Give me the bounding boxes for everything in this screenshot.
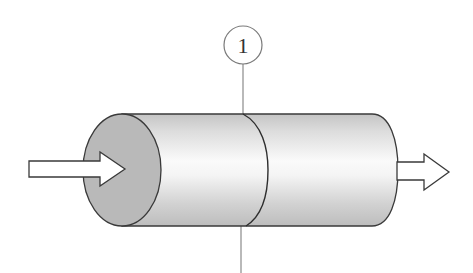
section-marker: 1 bbox=[224, 26, 262, 64]
outlet-arrow-icon bbox=[397, 154, 449, 190]
cylinder-diagram: 1 bbox=[0, 0, 473, 273]
section-marker-label: 1 bbox=[238, 33, 249, 58]
